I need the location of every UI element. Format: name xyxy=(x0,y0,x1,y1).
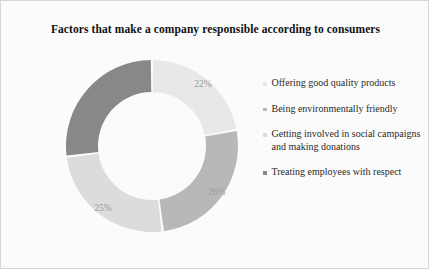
slice-value-label: 22% xyxy=(194,79,212,89)
slice-value-label: 25% xyxy=(94,203,112,213)
legend-item[interactable]: Being environmentally friendly xyxy=(263,103,427,116)
legend-item-label: Getting involved in social campaigns and… xyxy=(272,128,428,153)
legend-marker-icon xyxy=(263,108,267,112)
chart-title: Factors that make a company responsible … xyxy=(1,23,429,35)
legend-marker-icon xyxy=(263,171,267,175)
donut-chart: 22%26%25% xyxy=(59,53,245,239)
legend-item[interactable]: Offering good quality products xyxy=(263,77,427,90)
legend-item-label: Offering good quality products xyxy=(272,77,396,90)
legend-item[interactable]: Getting involved in social campaigns and… xyxy=(263,128,427,153)
chart-figure: Factors that make a company responsible … xyxy=(0,0,429,269)
slice-value-label: 26% xyxy=(208,187,226,197)
legend-item[interactable]: Treating employees with respect xyxy=(263,166,427,179)
donut-slice xyxy=(67,154,162,232)
legend-item-label: Treating employees with respect xyxy=(272,166,402,179)
donut-chart-svg: 22%26%25% xyxy=(59,53,245,239)
donut-slice xyxy=(160,131,238,231)
donut-slice xyxy=(66,60,151,156)
legend-marker-icon xyxy=(263,82,267,86)
legend-item-label: Being environmentally friendly xyxy=(272,103,398,116)
chart-legend: Offering good quality productsBeing envi… xyxy=(263,77,427,192)
legend-marker-icon xyxy=(263,133,267,137)
donut-slice xyxy=(153,60,236,135)
donut-slices xyxy=(66,60,238,232)
